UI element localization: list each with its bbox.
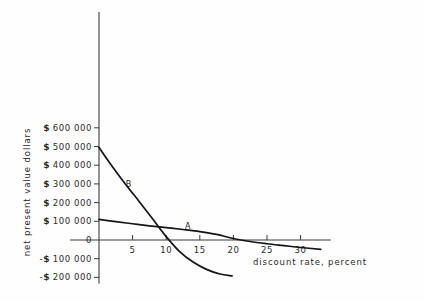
npv-chart-figure: $600 000$500 000$400 000$300 000$200 000… — [0, 0, 425, 301]
svg-text:15: 15 — [194, 245, 206, 255]
svg-text:-$100 000: -$100 000 — [40, 254, 92, 264]
svg-text:$500 000: $500 000 — [43, 142, 92, 152]
x-axis-tick-labels: 51015202530 — [130, 245, 307, 255]
x-axis-tick-marks — [133, 235, 301, 240]
svg-text:$200 000: $200 000 — [43, 198, 92, 208]
svg-text:$300 000: $300 000 — [43, 179, 92, 189]
x-axis-title: discount rate, percent — [253, 257, 367, 267]
svg-text:$100 000: $100 000 — [43, 216, 92, 226]
svg-text:20: 20 — [227, 245, 239, 255]
chart-canvas: $600 000$500 000$400 000$300 000$200 000… — [0, 0, 425, 301]
svg-text:-$200 000: -$200 000 — [40, 272, 92, 282]
curve-label-b: B — [126, 180, 132, 189]
svg-text:10: 10 — [160, 245, 172, 255]
svg-text:0: 0 — [86, 235, 92, 245]
curve-label-a: A — [185, 222, 191, 231]
svg-text:$600 000: $600 000 — [43, 123, 92, 133]
y-axis-title: net present value dollars — [22, 128, 32, 257]
svg-text:25: 25 — [261, 245, 273, 255]
y-axis-tick-labels: $600 000$500 000$400 000$300 000$200 000… — [40, 123, 92, 283]
curve-b — [99, 147, 232, 275]
y-axis-tick-marks — [94, 128, 99, 278]
svg-text:$400 000: $400 000 — [43, 160, 92, 170]
svg-text:5: 5 — [130, 245, 136, 255]
